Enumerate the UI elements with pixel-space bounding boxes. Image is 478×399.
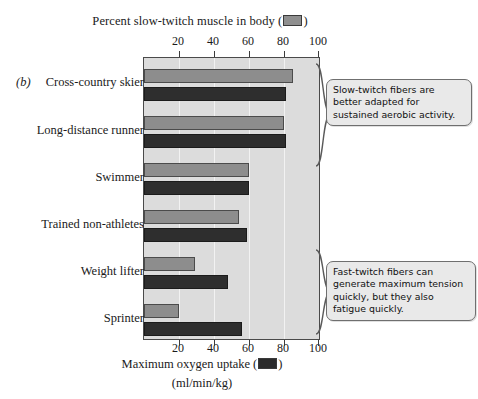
- top-tick-20: [179, 51, 180, 57]
- top-axis-title-suffix: ): [303, 14, 307, 28]
- top-tick-label-80: 80: [277, 34, 289, 49]
- category-label-weight-lifter: Weight lifter: [81, 264, 144, 279]
- bottom-tick-100: [318, 340, 319, 346]
- category-label-long-distance-runner: Long-distance runner: [37, 123, 144, 138]
- bar-cross-country-skier-slow-twitch: [144, 69, 293, 83]
- callout-fast-twitch: Fast-twitch fibers can generate maximum …: [326, 261, 476, 321]
- bottom-axis-title: Maximum oxygen uptake (): [0, 357, 404, 372]
- slow-twitch-legend-swatch-icon: [283, 15, 302, 26]
- category-label-sprinter: Sprinter: [104, 311, 144, 326]
- max-oxygen-legend-swatch-icon: [258, 358, 277, 369]
- bar-weight-lifter-max-oxygen: [144, 275, 228, 289]
- bottom-tick-80: [284, 340, 285, 346]
- top-tick-40: [214, 51, 215, 57]
- top-tick-100: [318, 51, 319, 57]
- panel-letter: (b): [16, 75, 31, 90]
- bottom-axis-title-suffix: ): [278, 357, 282, 371]
- top-tick-label-20: 20: [172, 34, 184, 49]
- top-axis-title-prefix: Percent slow-twitch muscle in body (: [92, 14, 282, 28]
- plot-area: [143, 57, 320, 340]
- category-label-swimmer: Swimmer: [95, 170, 144, 185]
- bar-swimmer-slow-twitch: [144, 163, 249, 177]
- bar-trained-non-athletes-max-oxygen: [144, 228, 247, 242]
- bar-cross-country-skier-max-oxygen: [144, 87, 286, 101]
- top-tick-label-40: 40: [207, 34, 219, 49]
- bottom-tick-label-80: 80: [277, 341, 289, 356]
- bottom-tick-60: [249, 340, 250, 346]
- bar-swimmer-max-oxygen: [144, 181, 249, 195]
- bar-weight-lifter-slow-twitch: [144, 257, 195, 271]
- bottom-axis-title-prefix: Maximum oxygen uptake (: [122, 357, 258, 371]
- bottom-tick-20: [179, 340, 180, 346]
- top-axis-title: Percent slow-twitch muscle in body (): [0, 14, 400, 29]
- bottom-tick-40: [214, 340, 215, 346]
- bar-long-distance-runner-max-oxygen: [144, 134, 286, 148]
- bar-long-distance-runner-slow-twitch: [144, 116, 284, 130]
- callout-slow-twitch: Slow-twitch fibers are better adapted fo…: [326, 79, 472, 126]
- category-label-cross-country-skier: Cross-country skier: [46, 75, 144, 90]
- bottom-axis-subtitle: (ml/min/kg): [0, 376, 404, 391]
- bar-sprinter-max-oxygen: [144, 322, 242, 336]
- figure-panel-b: Percent slow-twitch muscle in body () 20…: [0, 0, 478, 399]
- top-tick-80: [284, 51, 285, 57]
- bottom-tick-label-20: 20: [172, 341, 184, 356]
- bar-trained-non-athletes-slow-twitch: [144, 210, 239, 224]
- bar-sprinter-slow-twitch: [144, 304, 179, 318]
- top-tick-label-100: 100: [309, 34, 327, 49]
- top-tick-60: [249, 51, 250, 57]
- bottom-tick-label-40: 40: [207, 341, 219, 356]
- category-label-trained-non-athletes: Trained non-athletes: [41, 217, 144, 232]
- top-tick-label-60: 60: [242, 34, 254, 49]
- bottom-tick-label-60: 60: [242, 341, 254, 356]
